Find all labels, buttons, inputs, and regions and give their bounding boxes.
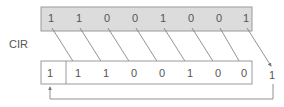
shift-arrows: [52, 28, 271, 66]
bottom-bit: 1: [75, 67, 81, 79]
top-bit: 0: [216, 12, 222, 24]
bottom-bit: 1: [187, 67, 193, 79]
shift-arrow-icon: [247, 28, 271, 66]
shift-arrow-icon: [52, 28, 76, 66]
circular-shift-diagram: 1 1 0 0 1 0 0 1 CIR 1 1 1 0 0 1 0 0 1: [0, 0, 284, 107]
bottom-bit: 0: [241, 67, 247, 79]
carry-bit: 1: [47, 67, 53, 79]
bottom-bit: 0: [159, 67, 165, 79]
bottom-bit: 0: [131, 67, 137, 79]
shift-arrow-icon: [108, 28, 132, 66]
wraparound-arrow-icon: [50, 84, 273, 99]
top-bit: 1: [76, 12, 82, 24]
shift-arrow-icon: [164, 28, 188, 66]
top-bit: 1: [243, 12, 249, 24]
top-bit: 0: [104, 12, 110, 24]
shift-arrow-icon: [220, 28, 242, 66]
top-bit: 0: [132, 12, 138, 24]
shifted-out-bit: 1: [269, 69, 275, 81]
top-bit: 1: [48, 12, 54, 24]
shift-arrow-icon: [80, 28, 104, 66]
shift-arrow-icon: [192, 28, 216, 66]
cir-label: CIR: [9, 38, 28, 50]
bottom-bit: 1: [103, 67, 109, 79]
top-bit: 0: [188, 12, 194, 24]
shift-arrow-icon: [136, 28, 160, 66]
bottom-bit: 0: [215, 67, 221, 79]
top-bit: 1: [160, 12, 166, 24]
